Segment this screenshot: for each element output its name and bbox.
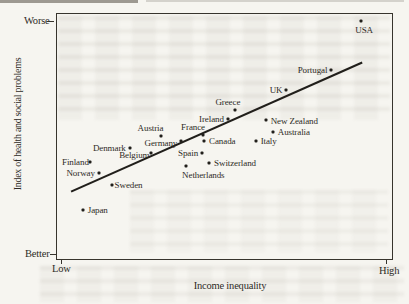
data-point-dot-germany (180, 139, 183, 142)
data-point-label-usa: USA (355, 26, 373, 35)
x-axis-title: Income inequality (194, 281, 267, 292)
data-point-label-germany: Germany (144, 138, 177, 147)
data-point-label-italy: Italy (261, 136, 277, 145)
data-point-dot-france (202, 134, 205, 137)
x-axis-tick-label-high: High (379, 266, 399, 277)
data-point-dot-japan (81, 208, 84, 211)
data-point-label-netherlands: Netherlands (182, 171, 224, 180)
x-axis-tick-mark (386, 260, 387, 264)
data-point-dot-belgium (150, 151, 153, 154)
data-point-label-belgium: Belgium (119, 150, 149, 159)
data-point-dot-new-zealand (264, 119, 267, 122)
data-point-label-new-zealand: New Zealand (271, 117, 318, 126)
data-point-label-france: France (181, 123, 205, 132)
data-point-dot-norway (97, 171, 100, 174)
data-point-label-japan: Japan (88, 205, 108, 214)
x-axis-tick-label-low: Low (52, 264, 71, 275)
data-point-label-norway: Norway (66, 168, 94, 177)
data-point-dot-sweden (110, 183, 113, 186)
data-point-dot-australia (271, 131, 274, 134)
plot-area: USAPortugalUKGreeceNew ZealandIrelandAus… (56, 13, 393, 260)
y-axis-tick-mark (47, 21, 54, 22)
x-axis-tick-mark (61, 260, 62, 264)
data-point-label-austria: Austria (138, 124, 164, 133)
scan-edge-artifact (146, 0, 404, 2)
data-point-dot-uk (285, 89, 288, 92)
data-point-dot-usa (360, 19, 363, 22)
data-point-label-australia: Australia (278, 128, 310, 137)
data-point-dot-portugal (330, 68, 333, 71)
data-point-label-uk: UK (270, 86, 283, 95)
data-point-dot-italy (254, 139, 257, 142)
data-point-dot-switzerland (208, 161, 211, 164)
data-point-dot-netherlands (185, 164, 188, 167)
y-axis-title: Index of health and social problems (12, 58, 23, 191)
data-point-dot-spain (201, 151, 204, 154)
book-figure-page: Index of health and social problems Wors… (0, 0, 409, 304)
data-point-label-sweden: Sweden (115, 180, 143, 189)
y-axis-tick-label-worse: Worse (24, 16, 50, 27)
data-point-label-finland: Finland (62, 157, 89, 166)
data-point-label-switzerland: Switzerland (214, 158, 256, 167)
data-point-label-canada: Canada (209, 136, 235, 145)
scatter-points-layer: USAPortugalUKGreeceNew ZealandIrelandAus… (57, 14, 392, 259)
data-point-label-portugal: Portugal (298, 65, 328, 74)
data-point-label-spain: Spain (178, 148, 198, 157)
scan-edge-artifact (0, 0, 138, 3)
y-axis-tick-label-better: Better (25, 249, 49, 260)
data-point-dot-ireland (226, 118, 229, 121)
data-point-label-greece: Greece (215, 98, 240, 107)
data-point-dot-greece (233, 109, 236, 112)
data-point-dot-canada (203, 139, 206, 142)
